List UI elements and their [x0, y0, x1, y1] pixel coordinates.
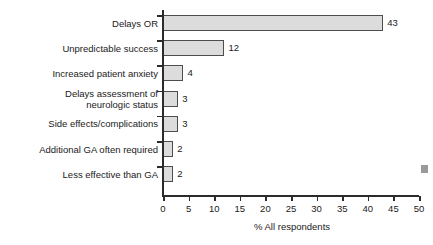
bar-value-label: 2	[177, 141, 182, 157]
bar-value-label: 4	[187, 65, 192, 81]
bar	[163, 91, 178, 107]
x-axis-tick	[291, 196, 293, 201]
bar-value-label: 43	[387, 15, 398, 31]
x-axis-tick	[368, 196, 370, 201]
x-axis-tick	[240, 196, 242, 201]
x-axis-tick	[214, 196, 216, 201]
bar	[163, 116, 178, 132]
bar-value-label: 3	[182, 91, 187, 107]
x-axis-title: % All respondents	[232, 221, 352, 232]
y-axis-tick	[157, 91, 162, 93]
category-label: Delays OR	[0, 18, 158, 29]
bar	[163, 15, 383, 31]
category-axis-labels: Delays ORUnpredictable successIncreased …	[0, 0, 158, 195]
x-axis-tick	[163, 196, 165, 201]
y-axis-line	[162, 10, 164, 196]
scan-artifact-mark	[421, 165, 428, 173]
category-label: Side effects/complications	[0, 118, 158, 129]
bar	[163, 65, 183, 81]
y-axis-tick	[157, 15, 162, 17]
bar	[163, 40, 224, 56]
category-label: Less effective than GA	[0, 169, 158, 180]
bar	[163, 141, 173, 157]
x-axis-tick	[419, 196, 421, 201]
category-label: Increased patient anxiety	[0, 68, 158, 79]
y-axis-tick	[157, 116, 162, 118]
bar-value-label: 2	[177, 166, 182, 182]
plot-area: 431243322	[163, 10, 419, 195]
y-axis-tick	[157, 141, 162, 143]
x-axis-tick	[189, 196, 191, 201]
x-axis-tick-label: 50	[404, 203, 433, 214]
category-label: Delays assessment of neurologic status	[0, 88, 158, 110]
bar	[163, 166, 173, 182]
x-axis-tick	[265, 196, 267, 201]
y-axis-tick	[157, 166, 162, 168]
y-axis-tick	[157, 40, 162, 42]
x-axis-tick	[393, 196, 395, 201]
bar-value-label: 3	[182, 116, 187, 132]
category-label: Unpredictable success	[0, 43, 158, 54]
bar-value-label: 12	[228, 40, 239, 56]
bar-chart: Delays ORUnpredictable successIncreased …	[0, 0, 433, 245]
x-axis-tick	[317, 196, 319, 201]
x-axis-tick	[342, 196, 344, 201]
y-axis-tick	[157, 65, 162, 67]
category-label: Additional GA often required	[0, 144, 158, 155]
